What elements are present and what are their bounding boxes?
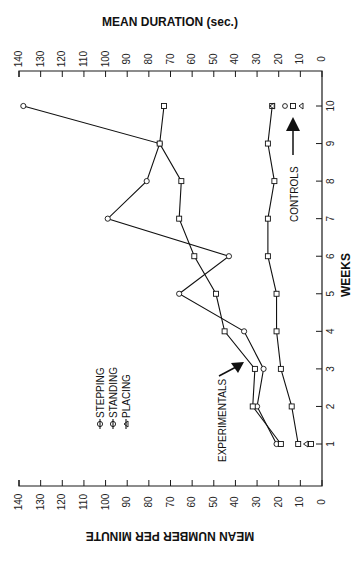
weeks-axis-title: WEEKS bbox=[339, 253, 353, 297]
week-tick-label: 9 bbox=[325, 140, 336, 146]
top-tick-label: 110 bbox=[78, 51, 89, 67]
bottom-tick-label: 130 bbox=[35, 493, 46, 510]
circle-marker-icon bbox=[21, 103, 26, 108]
top-tick-label: 90 bbox=[121, 53, 132, 65]
top-tick-label: 10 bbox=[294, 53, 305, 65]
week-tick-label: 2 bbox=[325, 403, 336, 409]
top-tick-label: 80 bbox=[143, 53, 154, 65]
week-tick-label: 7 bbox=[325, 215, 336, 221]
square-marker-icon bbox=[274, 291, 279, 296]
square-marker-icon bbox=[272, 179, 277, 184]
bottom-tick-label: 120 bbox=[56, 493, 67, 510]
circle-marker-icon bbox=[241, 329, 246, 334]
week-tick-label: 6 bbox=[325, 253, 336, 259]
square-marker-icon bbox=[309, 442, 314, 447]
square-marker-icon bbox=[296, 442, 301, 447]
square-marker-icon bbox=[177, 216, 182, 221]
series-controls bbox=[265, 104, 300, 447]
square-marker-icon bbox=[157, 141, 162, 146]
circle-marker-icon bbox=[283, 104, 288, 109]
legend-label-placing: PLACING bbox=[121, 374, 132, 418]
triangle-marker-icon bbox=[304, 441, 309, 447]
square-marker-icon bbox=[222, 329, 227, 334]
square-marker-icon bbox=[274, 329, 279, 334]
arrow-icon bbox=[231, 362, 244, 373]
circle-marker-icon bbox=[226, 254, 231, 259]
square-marker-icon bbox=[192, 254, 197, 259]
top-axis-ticks: 1401301201101009080706050403020100 bbox=[13, 50, 327, 77]
square-marker-icon bbox=[162, 104, 167, 109]
triangle-marker-icon bbox=[299, 103, 303, 109]
square-marker-icon bbox=[250, 404, 255, 409]
experimentals-annotation: EXPERIMENTALS bbox=[217, 362, 244, 462]
square-marker-icon bbox=[278, 366, 283, 371]
square-marker-icon bbox=[213, 291, 218, 296]
controls-annotation: CONTROLS bbox=[283, 103, 303, 222]
circle-marker-icon bbox=[261, 366, 266, 371]
circle-marker-icon bbox=[105, 216, 110, 221]
bottom-tick-label: 50 bbox=[208, 496, 219, 508]
week-tick-label: 5 bbox=[325, 291, 336, 297]
top-tick-label: 40 bbox=[229, 53, 240, 65]
top-tick-label: 130 bbox=[35, 50, 46, 67]
bottom-tick-label: 0 bbox=[316, 499, 327, 505]
square-marker-icon bbox=[179, 179, 184, 184]
square-marker-icon bbox=[291, 104, 296, 109]
chart: MEAN DURATION (sec.) MEAN NUMBER PER MIN… bbox=[0, 0, 361, 568]
bottom-tick-label: 60 bbox=[186, 496, 197, 508]
bottom-tick-label: 40 bbox=[229, 496, 240, 508]
circle-marker-icon bbox=[177, 291, 182, 296]
legend-label-standing: STANDING bbox=[108, 367, 119, 418]
bottom-axis-ticks: 1401301201101009080706050403020100 bbox=[13, 480, 327, 510]
square-marker-icon bbox=[278, 442, 283, 447]
week-tick-label: 8 bbox=[325, 178, 336, 184]
top-tick-label: 60 bbox=[186, 53, 197, 65]
bottom-tick-label: 10 bbox=[294, 496, 305, 508]
weeks-axis-ticks: 12345678910 bbox=[316, 100, 336, 447]
top-tick-label: 120 bbox=[56, 50, 67, 67]
top-axis-title: MEAN DURATION (sec.) bbox=[102, 15, 238, 29]
circle-marker-icon bbox=[144, 179, 149, 184]
top-tick-label: 20 bbox=[273, 53, 284, 65]
week-tick-label: 4 bbox=[325, 328, 336, 334]
legend-item-placing: PLACING bbox=[121, 374, 132, 429]
bottom-tick-label: 30 bbox=[251, 496, 262, 508]
week-tick-label: 1 bbox=[325, 441, 336, 447]
square-marker-icon bbox=[265, 216, 270, 221]
week-tick-label: 10 bbox=[325, 100, 336, 112]
top-tick-label: 50 bbox=[208, 53, 219, 65]
square-marker-icon bbox=[252, 366, 257, 371]
legend-item-standing: STANDING bbox=[108, 367, 119, 429]
bottom-tick-label: 20 bbox=[273, 496, 284, 508]
square-marker-icon bbox=[265, 254, 270, 259]
bottom-tick-label: 110 bbox=[78, 494, 89, 510]
series-experimentals-stepping bbox=[21, 103, 279, 446]
top-tick-label: 0 bbox=[316, 56, 327, 62]
top-tick-label: 30 bbox=[251, 53, 262, 65]
legend-label-stepping: STEPPING bbox=[95, 367, 106, 418]
square-marker-icon bbox=[289, 404, 294, 409]
week-tick-label: 3 bbox=[325, 366, 336, 372]
controls-label: CONTROLS bbox=[289, 166, 300, 222]
bottom-tick-label: 100 bbox=[100, 493, 111, 510]
top-tick-label: 70 bbox=[165, 53, 176, 65]
bottom-tick-label: 90 bbox=[121, 496, 132, 508]
bottom-tick-label: 80 bbox=[143, 496, 154, 508]
experimentals-label: EXPERIMENTALS bbox=[217, 379, 228, 462]
data-series bbox=[21, 103, 314, 447]
plot-frame bbox=[19, 71, 322, 486]
top-tick-label: 100 bbox=[100, 50, 111, 67]
legend: STEPPING STANDING PLACING bbox=[95, 367, 132, 429]
top-tick-label: 140 bbox=[13, 50, 24, 67]
legend-item-stepping: STEPPING bbox=[95, 367, 106, 429]
bottom-tick-label: 140 bbox=[13, 493, 24, 510]
bottom-axis-title: MEAN NUMBER PER MINUTE bbox=[86, 529, 255, 543]
square-marker-icon bbox=[265, 141, 270, 146]
arrow-icon bbox=[286, 117, 300, 131]
bottom-tick-label: 70 bbox=[165, 496, 176, 508]
